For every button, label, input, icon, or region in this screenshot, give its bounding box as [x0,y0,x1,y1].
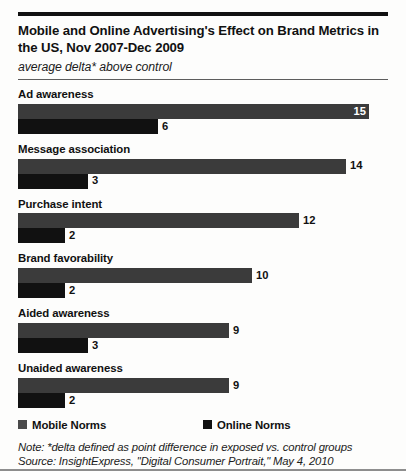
bar-online [18,228,65,243]
bar-mobile [18,213,299,228]
chart-legend: Mobile Norms Online Norms [18,419,388,431]
bar-value-label: 3 [88,340,98,351]
bar-value-label: 10 [252,270,268,281]
category-label: Ad awareness [18,88,388,101]
bar-row-mobile: 9 [18,323,388,338]
bar-value-label: 9 [229,325,239,336]
bar-mobile [18,378,229,393]
legend-item-online-norms: Online Norms [203,419,291,431]
bar-value-label: 2 [65,285,75,296]
chart-subtitle: average delta* above control [18,60,388,74]
category-label: Aided awareness [18,307,388,320]
bar-row-mobile: 14 [18,159,388,174]
bar-value-label: 6 [158,121,168,132]
category-label: Unaided awareness [18,362,388,375]
bar-group: Purchase intent 12 2 [18,198,388,244]
bar-row-mobile: 12 [18,213,388,228]
bar-row-online: 3 [18,338,388,353]
bar-value-label: 9 [229,380,239,391]
bar-row-mobile: 9 [18,378,388,393]
bar-online [18,119,158,134]
bar-row-mobile: 10 [18,268,388,283]
bar-value-label: 3 [88,175,98,186]
legend-swatch-icon [203,420,212,429]
bar-mobile [18,268,252,283]
header-top-rule [18,12,388,16]
bar-online [18,338,88,353]
bar-row-online: 6 [18,119,388,134]
chart-title: Mobile and Online Advertising's Effect o… [18,23,388,57]
legend-swatch-icon [18,420,27,429]
note-text: Note: *delta defined as point difference… [18,440,388,454]
bar-row-online: 2 [18,228,388,243]
bar-value-label: 15 [354,106,369,117]
bar-online [18,393,65,408]
bar-value-label: 2 [65,395,75,406]
bar-group: Ad awareness 15 6 [18,88,388,134]
category-label: Purchase intent [18,198,388,211]
legend-label: Online Norms [217,419,291,431]
bar-group: Unaided awareness 9 2 [18,362,388,408]
emarketer-chart-card: Mobile and Online Advertising's Effect o… [0,0,406,471]
bar-row-online: 2 [18,393,388,408]
bar-group: Message association 14 3 [18,143,388,189]
bar-mobile [18,323,229,338]
bar-value-label: 12 [299,215,315,226]
legend-label: Mobile Norms [32,419,106,431]
chart-footnotes: Note: *delta defined as point difference… [18,440,388,468]
chart-plot-area: Ad awareness 15 6 Message association 14 [18,88,388,408]
legend-item-mobile-norms: Mobile Norms [18,419,203,431]
bar-row-mobile: 15 [18,104,388,119]
bar-mobile: 15 [18,104,369,119]
source-text: Source: InsightExpress, "Digital Consume… [18,454,388,468]
bar-mobile [18,159,346,174]
bar-value-label: 2 [65,230,75,241]
category-label: Brand favorability [18,252,388,265]
bar-value-label: 14 [346,160,362,171]
bar-group: Brand favorability 10 2 [18,252,388,298]
category-label: Message association [18,143,388,156]
bar-row-online: 3 [18,174,388,189]
bar-online [18,174,88,189]
header-bottom-rule [18,79,388,81]
bar-online [18,283,65,298]
bar-group: Aided awareness 9 3 [18,307,388,353]
bar-row-online: 2 [18,283,388,298]
